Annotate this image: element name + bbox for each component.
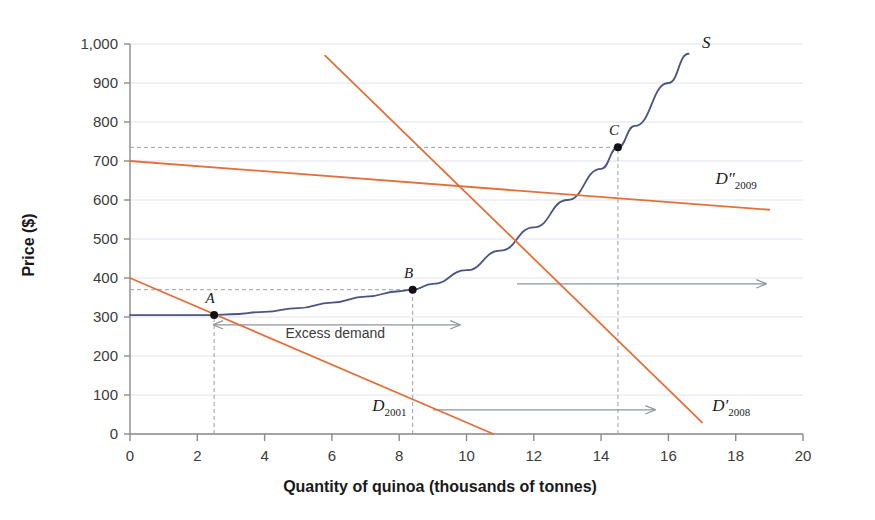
x-tick-label: 6	[328, 447, 336, 464]
x-tick-label: 8	[395, 447, 403, 464]
quinoa-supply-demand-chart: 01002003004005006007008009001,0000246810…	[0, 0, 875, 520]
x-tick-label: 16	[660, 447, 677, 464]
x-tick-label: 20	[795, 447, 812, 464]
x-tick-label: 0	[126, 447, 134, 464]
curve-label-D2001: D2001	[371, 396, 406, 418]
curve-label-main: D	[371, 396, 385, 415]
curve-label-main: S	[702, 33, 711, 52]
x-tick-label: 2	[193, 447, 201, 464]
curves	[130, 54, 769, 434]
x-axis-title: Quantity of quinoa (thousands of tonnes)	[283, 478, 597, 495]
equilibrium-point-label-C: C	[609, 122, 620, 138]
curve-D"2009	[130, 161, 769, 210]
curve-label-subscript: 2009	[735, 179, 758, 191]
y-tick-label: 300	[93, 308, 118, 325]
y-tick-label: 500	[93, 230, 118, 247]
x-tick-label: 18	[727, 447, 744, 464]
curve-label-S: S	[702, 33, 711, 52]
y-tick-label: 600	[93, 191, 118, 208]
equilibrium-point-label-A: A	[205, 290, 216, 306]
chart-canvas: 01002003004005006007008009001,0000246810…	[0, 0, 875, 520]
y-axis-title: Price ($)	[20, 213, 37, 276]
curve-label-subscript: 2001	[385, 406, 407, 418]
y-tick-label: 100	[93, 386, 118, 403]
equilibrium-point-C	[614, 143, 622, 151]
curve-label-main: D′	[711, 396, 728, 415]
curve-label-D"2009: D″2009	[715, 169, 758, 191]
axis-ticks: 01002003004005006007008009001,0000246810…	[80, 35, 811, 464]
equilibrium-point-B	[409, 286, 417, 294]
curve-label-main: D″	[715, 169, 736, 188]
curve-label-subscript: 2008	[728, 406, 751, 418]
guide-lines	[130, 147, 618, 434]
gridlines	[130, 44, 803, 434]
y-tick-label: 200	[93, 347, 118, 364]
x-tick-label: 14	[593, 447, 610, 464]
y-tick-label: 700	[93, 152, 118, 169]
x-tick-label: 12	[525, 447, 542, 464]
y-tick-label: 1,000	[80, 35, 118, 52]
x-tick-label: 4	[260, 447, 268, 464]
annotation-arrows: Excess demand	[214, 284, 766, 410]
y-tick-label: 400	[93, 269, 118, 286]
equilibrium-point-label-B: B	[404, 265, 413, 281]
y-tick-label: 0	[110, 425, 118, 442]
chart-labels: SD2001D′2008D″2009	[371, 33, 757, 418]
x-tick-label: 10	[458, 447, 475, 464]
equilibrium-point-A	[210, 311, 218, 319]
curve-label-D'2008: D′2008	[711, 396, 751, 418]
y-tick-label: 900	[93, 74, 118, 91]
annotation-label-excess-demand: Excess demand	[285, 325, 385, 341]
equilibrium-points: ABC	[205, 122, 622, 319]
y-tick-label: 800	[93, 113, 118, 130]
